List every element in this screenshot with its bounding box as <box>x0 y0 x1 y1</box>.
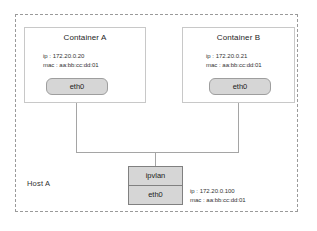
host-interface-info: ip : 172.20.0.100 mac : aa:bb:cc:dd:01 <box>190 187 246 205</box>
connector-container-b <box>238 103 239 153</box>
connector-container-a <box>76 103 77 153</box>
container-a-title: Container A <box>25 33 145 42</box>
container-b-mac: mac : aa:bb:cc:dd:01 <box>206 61 262 70</box>
connector-bus <box>76 152 239 153</box>
container-b-info: ip : 172.20.0.21 mac : aa:bb:cc:dd:01 <box>206 52 262 70</box>
connector-to-ipvlan <box>155 152 156 167</box>
container-b-box: Container B ip : 172.20.0.21 mac : aa:bb… <box>182 27 295 103</box>
container-b-title: Container B <box>183 33 294 42</box>
container-a-ip: ip : 172.20.0.20 <box>43 52 99 61</box>
host-mac: mac : aa:bb:cc:dd:01 <box>190 196 246 205</box>
container-a-mac: mac : aa:bb:cc:dd:01 <box>43 61 99 70</box>
container-b-ip: ip : 172.20.0.21 <box>206 52 262 61</box>
container-b-eth0-interface: eth0 <box>209 78 271 95</box>
host-ip: ip : 172.20.0.100 <box>190 187 246 196</box>
container-a-info: ip : 172.20.0.20 mac : aa:bb:cc:dd:01 <box>43 52 99 70</box>
ipvlan-parent-label: ipvlan <box>129 167 182 186</box>
host-label: Host A <box>27 179 50 188</box>
ipvlan-network-diagram: Host A Container A ip : 172.20.0.20 mac … <box>0 0 317 231</box>
container-a-box: Container A ip : 172.20.0.20 mac : aa:bb… <box>24 27 146 103</box>
ipvlan-device-label: eth0 <box>129 186 182 205</box>
container-a-eth0-interface: eth0 <box>46 78 108 95</box>
ipvlan-interface-box: ipvlan eth0 <box>128 166 183 205</box>
